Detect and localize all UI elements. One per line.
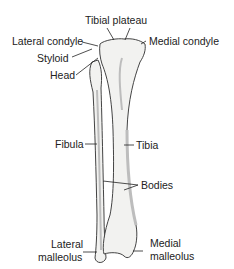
label-medial-malleolus-1: Medial <box>150 237 181 249</box>
label-tibia: Tibia <box>136 139 158 151</box>
label-fibula: Fibula <box>55 138 84 150</box>
label-head: Head <box>50 69 75 81</box>
label-lateral-malleolus-1: Lateral <box>51 238 83 250</box>
label-medial-condyle: Medial condyle <box>149 35 219 47</box>
label-tibial-plateau: Tibial plateau <box>85 14 147 26</box>
label-bodies: Bodies <box>141 179 173 191</box>
label-lateral-malleolus-2: malleolus <box>38 251 82 263</box>
label-styloid: Styloid <box>37 52 69 64</box>
label-medial-malleolus-2: malleolus <box>150 250 194 262</box>
label-lateral-condyle: Lateral condyle <box>12 35 83 47</box>
